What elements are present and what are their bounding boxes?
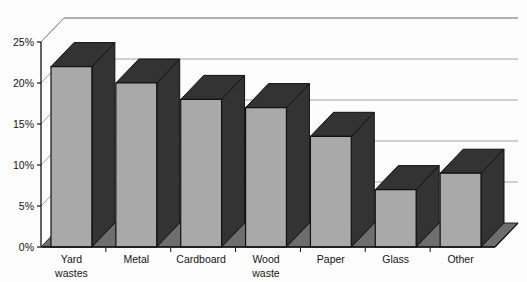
bar-chart-3d: 0%5%10%15%20%25%YardwastesMetalCardboard…	[0, 0, 527, 282]
y-tick-label-25: 25%	[13, 36, 34, 48]
bar-front-face	[116, 83, 157, 247]
x-category-label-1: wastes	[54, 267, 88, 279]
y-tick-label-15: 15%	[13, 118, 34, 130]
x-category-label-1: Yard	[61, 253, 83, 265]
bar-side-face	[92, 43, 115, 247]
x-axis-categories: YardwastesMetalCardboardWoodwastePaperGl…	[54, 247, 474, 279]
x-category-label-2: Metal	[123, 253, 149, 265]
x-category-label-4: waste	[251, 267, 280, 279]
bar-7[interactable]	[440, 149, 504, 247]
bar-side-face	[157, 59, 180, 247]
x-category-label-5: Paper	[317, 253, 346, 265]
bar-4[interactable]	[246, 84, 310, 247]
bar-1[interactable]	[51, 43, 115, 247]
x-category-label-7: Other	[447, 253, 474, 265]
y-tick-label-10: 10%	[13, 159, 34, 171]
bar-3[interactable]	[181, 75, 245, 247]
y-tick-label-5: 5%	[19, 200, 34, 212]
bar-front-face	[51, 67, 92, 247]
x-category-label-3: Cardboard	[176, 253, 226, 265]
bar-side-face	[222, 75, 245, 247]
x-category-label-6: Glass	[382, 253, 409, 265]
bar-front-face	[440, 173, 481, 247]
bar-front-face	[310, 136, 351, 247]
bar-front-face	[246, 108, 287, 247]
y-axis-ticks: 0%5%10%15%20%25%	[13, 36, 41, 253]
bar-side-face	[286, 84, 309, 247]
chart-container: 0%5%10%15%20%25%YardwastesMetalCardboard…	[0, 0, 527, 282]
x-category-label-4: Wood	[252, 253, 279, 265]
bar-front-face	[375, 190, 416, 247]
y-tick-label-20: 20%	[13, 77, 34, 89]
bar-2[interactable]	[116, 59, 180, 247]
bar-front-face	[181, 99, 222, 247]
bar-5[interactable]	[310, 112, 374, 247]
y-tick-label-0: 0%	[19, 241, 34, 253]
